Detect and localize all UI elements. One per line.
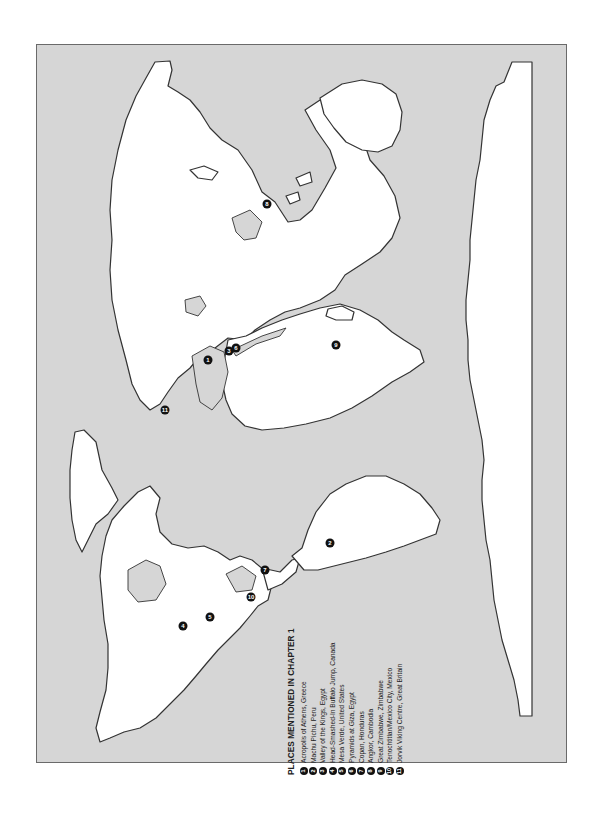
- marker-10[interactable]: 10: [247, 593, 256, 602]
- legend-item: 11Jorvik Viking Centre, Great Britain: [395, 555, 405, 775]
- marker-5[interactable]: 5: [206, 613, 215, 622]
- marker-number-icon: 3: [319, 767, 327, 775]
- legend-label: Angkor, Cambodia: [366, 709, 376, 763]
- legend-item: 2Machu Pichu, Peru: [309, 555, 319, 775]
- marker-number-icon: 6: [348, 767, 356, 775]
- marker-11[interactable]: 11: [161, 406, 170, 415]
- marker-number-icon: 5: [338, 767, 346, 775]
- marker-number-icon: 4: [329, 767, 337, 775]
- legend-item: 8Angkor, Cambodia: [366, 555, 376, 775]
- north-america-landmass: [96, 486, 272, 742]
- marker-7[interactable]: 7: [261, 566, 270, 575]
- legend-item: 6Pyramids at Giza, Egypt: [347, 555, 357, 775]
- marker-8[interactable]: 8: [263, 200, 272, 209]
- legend-item: 7Copan, Honduras: [357, 555, 367, 775]
- legend-label: Great Zimbabwe, Zimbabwe: [376, 680, 386, 763]
- legend-item: 9Great Zimbabwe, Zimbabwe: [376, 555, 386, 775]
- antarctica-landmass: [466, 62, 532, 716]
- legend-item: 10Tenochtitlan/Mexico City, Mexico: [385, 555, 395, 775]
- marker-number-icon: 9: [377, 767, 385, 775]
- legend-label: Valley of the Kings, Egypt: [318, 688, 328, 763]
- marker-1[interactable]: 1: [204, 356, 213, 365]
- indonesia: [286, 172, 312, 204]
- marker-number-icon: 7: [357, 767, 365, 775]
- legend-item: 5Mesa Verde, United States: [337, 555, 347, 775]
- legend-label: Machu Pichu, Peru: [309, 707, 319, 763]
- marker-number-icon: 1: [300, 767, 308, 775]
- marker-6[interactable]: 6: [232, 344, 241, 353]
- legend-title: PLACES MENTIONED IN CHAPTER 1: [287, 555, 296, 775]
- svg-text:10: 10: [248, 594, 255, 600]
- svg-text:11: 11: [162, 407, 169, 413]
- marker-9[interactable]: 9: [332, 341, 341, 350]
- map-legend: PLACES MENTIONED IN CHAPTER 1 1Acropolis…: [287, 555, 405, 775]
- legend-item: 1Acropolis of Athens, Greece: [299, 555, 309, 775]
- legend-item: 4Head-Smashed-In Buffalo Jump, Canada: [328, 555, 338, 775]
- marker-number-icon: 8: [367, 767, 375, 775]
- legend-item: 3Valley of the Kings, Egypt: [318, 555, 328, 775]
- legend-label: Acropolis of Athens, Greece: [299, 681, 309, 763]
- legend-label: Pyramids at Giza, Egypt: [347, 692, 357, 763]
- marker-number-icon: 11: [396, 767, 404, 775]
- legend-label: Mesa Verde, United States: [337, 685, 347, 763]
- marker-2[interactable]: 2: [326, 539, 335, 548]
- legend-label: Head-Smashed-In Buffalo Jump, Canada: [328, 643, 338, 763]
- legend-label: Jorvik Viking Centre, Great Britain: [395, 664, 405, 763]
- mediterranean-sea: [192, 346, 228, 410]
- marker-number-icon: 10: [386, 767, 394, 775]
- legend-label: Copan, Honduras: [357, 711, 367, 763]
- marker-4[interactable]: 4: [179, 622, 188, 631]
- legend-label: Tenochtitlan/Mexico City, Mexico: [385, 668, 395, 763]
- marker-number-icon: 2: [309, 767, 317, 775]
